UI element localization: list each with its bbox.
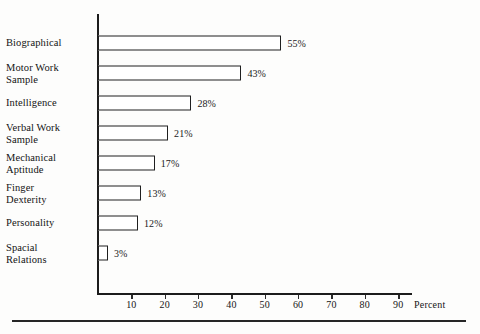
category-label: Personality — [6, 217, 92, 229]
category-label-line: Dexterity — [6, 193, 92, 205]
bar — [98, 126, 168, 141]
x-axis-title: Percent — [414, 299, 445, 310]
category-label: Motor WorkSample — [6, 62, 92, 85]
category-label-line: Sample — [6, 73, 92, 85]
x-axis-tick-label: 70 — [326, 299, 336, 310]
bar-row: Motor WorkSample43% — [0, 58, 480, 88]
bar-value-label: 12% — [144, 218, 163, 229]
bar-rows: Biographical55%Motor WorkSample43%Intell… — [0, 0, 480, 293]
category-label-line: Sample — [6, 133, 92, 145]
bar-row: Verbal WorkSample21% — [0, 118, 480, 148]
bar — [98, 36, 281, 51]
bar — [98, 156, 155, 171]
bar-value-label: 43% — [247, 68, 266, 79]
category-label: MechanicalAptitude — [6, 152, 92, 175]
bar-value-label: 28% — [197, 98, 216, 109]
category-label-line: Finger — [6, 182, 92, 194]
bar — [98, 186, 141, 201]
bar-row: Biographical55% — [0, 28, 480, 58]
category-label-line: Mechanical — [6, 152, 92, 164]
category-label-line: Biographical — [6, 37, 92, 49]
x-axis-tick-label: 30 — [193, 299, 203, 310]
bottom-rule-divider — [12, 320, 466, 322]
category-label-line: Verbal Work — [6, 122, 92, 134]
category-label: FingerDexterity — [6, 182, 92, 205]
bar — [98, 246, 108, 261]
x-axis-tick-label: 90 — [393, 299, 403, 310]
bar-value-label: 55% — [287, 38, 306, 49]
category-label: SpacialRelations — [6, 242, 92, 265]
category-label-line: Intelligence — [6, 97, 92, 109]
category-label-line: Personality — [6, 217, 92, 229]
bar-row: Personality12% — [0, 208, 480, 238]
bar-row: FingerDexterity13% — [0, 178, 480, 208]
category-label: Verbal WorkSample — [6, 122, 92, 145]
bar-row: Intelligence28% — [0, 88, 480, 118]
bar-chart: Biographical55%Motor WorkSample43%Intell… — [0, 0, 480, 334]
x-axis-tick-label: 80 — [360, 299, 370, 310]
bar-value-label: 13% — [147, 188, 166, 199]
x-axis-tick-label: 10 — [126, 299, 136, 310]
x-axis-tick-label: 60 — [293, 299, 303, 310]
bar-value-label: 3% — [114, 248, 128, 259]
bar-value-label: 17% — [161, 158, 180, 169]
x-axis-tick-label: 20 — [159, 299, 169, 310]
category-label-line: Spacial — [6, 242, 92, 254]
bar-row: MechanicalAptitude17% — [0, 148, 480, 178]
bar-value-label: 21% — [174, 128, 193, 139]
plot-area: Biographical55%Motor WorkSample43%Intell… — [0, 0, 480, 334]
category-label-line: Relations — [6, 253, 92, 265]
bar-row: SpacialRelations3% — [0, 238, 480, 268]
x-axis-tick-label: 40 — [226, 299, 236, 310]
category-label-line: Aptitude — [6, 163, 92, 175]
bar — [98, 96, 191, 111]
bar — [98, 66, 241, 81]
category-label-line: Motor Work — [6, 62, 92, 74]
category-label: Biographical — [6, 37, 92, 49]
category-label: Intelligence — [6, 97, 92, 109]
bar — [98, 216, 138, 231]
x-axis-tick-label: 50 — [260, 299, 270, 310]
